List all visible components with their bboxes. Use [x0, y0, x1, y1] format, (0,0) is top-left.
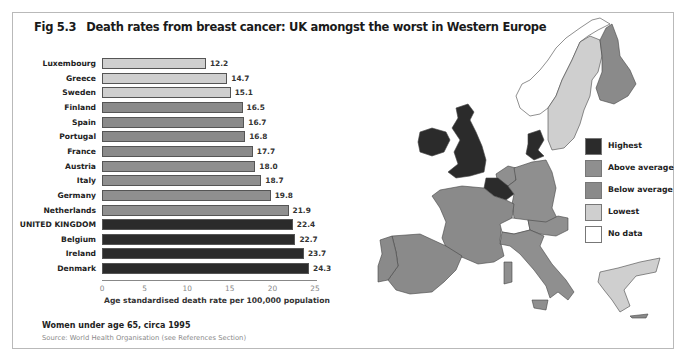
- bar-label: Luxembourg: [43, 58, 96, 70]
- bar: [102, 205, 289, 216]
- bar: [102, 234, 295, 245]
- bar-label: Spain: [72, 117, 96, 129]
- legend-label: No data: [608, 229, 642, 238]
- bar-value: 17.7: [257, 146, 275, 158]
- bar-label: Belgium: [61, 234, 96, 246]
- bar-row: Belgium22.7: [0, 234, 340, 246]
- bar-row: Denmark24.3: [0, 263, 340, 275]
- bar-value: 16.8: [249, 131, 267, 143]
- bar-row: Greece14.7: [0, 73, 340, 85]
- x-tick-label: 20: [268, 284, 277, 293]
- x-axis-label: Age standardised death rate per 100,000 …: [104, 296, 330, 305]
- bar-label: Italy: [77, 175, 96, 187]
- bar-value: 24.3: [313, 263, 331, 275]
- legend-item-lowest: Lowest: [585, 204, 675, 220]
- legend-item-no-data: No data: [585, 226, 675, 242]
- legend-swatch: [585, 182, 602, 199]
- bar-value: 16.5: [247, 102, 265, 114]
- map-germany: [508, 160, 558, 224]
- legend-swatch: [585, 226, 602, 243]
- x-tick-label: 15: [225, 284, 234, 293]
- legend-label: Highest: [608, 141, 642, 150]
- bar-row: Germany19.8: [0, 190, 340, 202]
- legend-swatch: [585, 160, 602, 177]
- bar: [102, 219, 293, 230]
- figure-source: Source: World Health Organisation (see R…: [42, 334, 246, 342]
- bar-label: Austria: [65, 161, 96, 173]
- bar-row: Netherlands21.9: [0, 205, 340, 217]
- legend-label: Below average: [608, 185, 673, 194]
- bar: [102, 58, 206, 69]
- figure-note: Women under age 65, circa 1995: [42, 321, 190, 330]
- x-tick-label: 25: [310, 284, 319, 293]
- bar-value: 22.4: [297, 219, 315, 231]
- bar-label: UNITED KINGDOM: [20, 219, 96, 231]
- bar-value: 18.7: [265, 175, 283, 187]
- map-denmark: [526, 130, 544, 160]
- legend-item-highest: Highest: [585, 138, 675, 154]
- bar-label: Finland: [64, 102, 96, 114]
- x-axis-line: [102, 280, 317, 281]
- bar-label: Netherlands: [43, 205, 96, 217]
- map-greece: [598, 258, 660, 312]
- legend-swatch: [585, 204, 602, 221]
- bar: [102, 102, 243, 113]
- bar: [102, 131, 245, 142]
- bar: [102, 190, 271, 201]
- bar: [102, 248, 304, 259]
- map-sicily: [532, 300, 548, 310]
- bar: [102, 117, 244, 128]
- legend-item-above-average: Above average: [585, 160, 675, 176]
- legend-label: Above average: [608, 163, 674, 172]
- map-ireland: [418, 128, 450, 156]
- legend-swatch: [585, 138, 602, 155]
- bar-row: Ireland23.7: [0, 248, 340, 260]
- map-uk: [448, 104, 486, 178]
- x-tick-label: 10: [182, 284, 191, 293]
- europe-map: [340, 14, 670, 344]
- bar-value: 12.2: [210, 58, 228, 70]
- bar: [102, 263, 309, 274]
- legend-label: Lowest: [608, 207, 639, 216]
- legend-item-below-average: Below average: [585, 182, 675, 198]
- bar-row: France17.7: [0, 146, 340, 158]
- bar-value: 23.7: [308, 248, 326, 260]
- bar-value: 16.7: [248, 117, 266, 129]
- map-sardinia: [504, 262, 512, 284]
- bar-value: 21.9: [293, 205, 311, 217]
- map-finland: [596, 24, 636, 104]
- x-tick-label: 5: [142, 284, 147, 293]
- bar-label: France: [67, 146, 96, 158]
- bar-label: Germany: [57, 190, 96, 202]
- bar-row: Luxembourg12.2: [0, 58, 340, 70]
- bar-value: 22.7: [299, 234, 317, 246]
- bar-row: Spain16.7: [0, 117, 340, 129]
- bar: [102, 175, 261, 186]
- bar-label: Denmark: [57, 263, 96, 275]
- bar: [102, 73, 227, 84]
- bar: [102, 87, 231, 98]
- bar-row: UNITED KINGDOM22.4: [0, 219, 340, 231]
- bar-value: 14.7: [231, 73, 249, 85]
- bar-value: 15.1: [235, 87, 253, 99]
- bar-row: Portugal16.8: [0, 131, 340, 143]
- x-tick-label: 0: [100, 284, 105, 293]
- bar-row: Sweden15.1: [0, 87, 340, 99]
- bar-row: Finland16.5: [0, 102, 340, 114]
- bar-label: Greece: [66, 73, 96, 85]
- bar-value: 19.8: [275, 190, 293, 202]
- map-crete: [630, 314, 648, 318]
- bar-label: Portugal: [59, 131, 96, 143]
- bar: [102, 161, 255, 172]
- bar-row: Austria18.0: [0, 161, 340, 173]
- bar-label: Sweden: [62, 87, 96, 99]
- bar-row: Italy18.7: [0, 175, 340, 187]
- bar: [102, 146, 253, 157]
- bar-value: 18.0: [259, 161, 277, 173]
- bar-label: Ireland: [66, 248, 96, 260]
- figure-number: Fig 5.3: [34, 20, 76, 34]
